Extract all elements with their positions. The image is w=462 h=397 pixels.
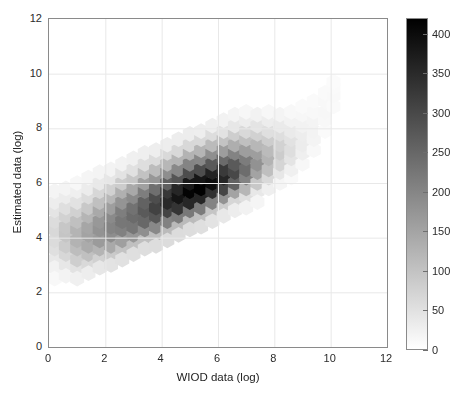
colorbar-tick-label: 200 xyxy=(432,186,450,198)
colorbar-tick-label: 150 xyxy=(432,225,450,237)
x-tick-label: 0 xyxy=(45,352,51,364)
colorbar-tick-mark xyxy=(423,113,428,114)
x-tick-label: 2 xyxy=(101,352,107,364)
x-tick-label: 10 xyxy=(324,352,336,364)
x-tick-label: 12 xyxy=(380,352,392,364)
colorbar-tick-label: 250 xyxy=(432,146,450,158)
hexbin-layer xyxy=(49,19,387,347)
colorbar-tick-mark xyxy=(423,310,428,311)
colorbar xyxy=(406,18,428,350)
y-tick-label: 12 xyxy=(12,12,42,24)
y-tick-label: 10 xyxy=(12,67,42,79)
colorbar-tick-mark xyxy=(423,231,428,232)
x-axis-label: WIOD data (log) xyxy=(48,371,388,383)
colorbar-gradient xyxy=(407,19,427,349)
colorbar-tick-label: 100 xyxy=(432,265,450,277)
colorbar-tick-label: 50 xyxy=(432,304,444,316)
colorbar-tick-mark xyxy=(423,350,428,351)
plot-area xyxy=(48,18,388,348)
x-tick-label: 8 xyxy=(270,352,276,364)
colorbar-tick-mark xyxy=(423,271,428,272)
colorbar-tick-mark xyxy=(423,73,428,74)
x-tick-label: 6 xyxy=(214,352,220,364)
colorbar-tick-label: 300 xyxy=(432,107,450,119)
y-tick-label: 0 xyxy=(12,340,42,352)
x-tick-label: 4 xyxy=(158,352,164,364)
colorbar-tick-label: 400 xyxy=(432,28,450,40)
colorbar-tick-label: 350 xyxy=(432,67,450,79)
colorbar-tick-label: 0 xyxy=(432,344,438,356)
colorbar-tick-mark xyxy=(423,152,428,153)
y-tick-label: 2 xyxy=(12,285,42,297)
colorbar-tick-mark xyxy=(423,34,428,35)
y-axis-label: Estimated data (log) xyxy=(11,82,23,282)
hexbin-figure: 024681012 024681012 WIOD data (log) Esti… xyxy=(0,0,462,397)
colorbar-tick-mark xyxy=(423,192,428,193)
